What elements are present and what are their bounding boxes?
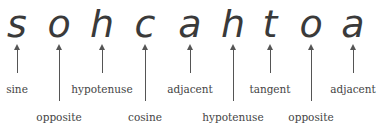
arrow-up-icon <box>190 49 191 73</box>
arrow-up-icon <box>17 49 18 73</box>
label-opposite: opposite <box>9 111 109 123</box>
label-cosine: cosine <box>95 111 195 123</box>
arrow-up-icon <box>353 49 354 73</box>
letter-o: o <box>296 4 326 44</box>
letter-s: s <box>2 4 32 44</box>
letter-h: h <box>218 4 248 44</box>
label-adjacent: adjacent <box>303 83 390 95</box>
arrow-up-icon <box>270 49 271 73</box>
label-opposite: opposite <box>261 111 361 123</box>
letter-c: c <box>130 4 160 44</box>
arrow-up-icon <box>102 49 103 73</box>
label-hypotenuse: hypotenuse <box>52 83 152 95</box>
letter-o: o <box>44 4 74 44</box>
letter-a: a <box>175 4 205 44</box>
letter-a: a <box>338 4 368 44</box>
letter-h: h <box>87 4 117 44</box>
letter-t: t <box>255 4 285 44</box>
